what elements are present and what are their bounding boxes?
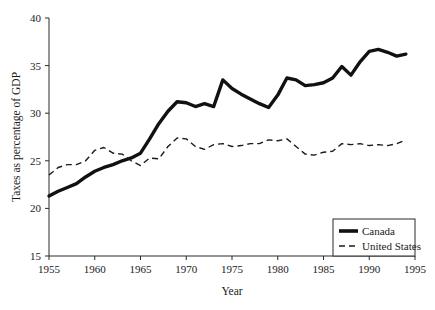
chart-figure: 152025303540 195519601965197019751980198… [0,0,435,310]
y-tick-label: 15 [30,250,42,262]
data-series-group [49,49,406,196]
x-tick-label: 1975 [221,263,244,275]
x-tick-label: 1965 [130,263,153,275]
x-tick-label: 1960 [84,263,107,275]
y-tick-label: 40 [30,12,42,24]
x-tick-label: 1970 [175,263,198,275]
line-chart: 152025303540 195519601965197019751980198… [0,0,435,310]
x-tick-label: 1990 [358,263,381,275]
y-axis-title: Taxes as percentage of GDP [10,72,23,202]
x-axis-title: Year [221,285,242,297]
x-axis-ticks: 195519601965197019751980198519901995 [38,256,427,275]
y-tick-label: 35 [30,60,42,72]
x-tick-label: 1985 [313,263,336,275]
y-tick-label: 30 [30,107,42,119]
y-tick-label: 20 [30,202,42,214]
x-tick-label: 1955 [38,263,61,275]
y-tick-label: 25 [30,155,42,167]
legend-label-canada: Canada [362,225,395,237]
x-tick-label: 1980 [267,263,290,275]
series-line-canada [49,49,406,196]
y-axis-ticks: 152025303540 [30,12,49,262]
x-tick-label: 1995 [404,263,427,275]
chart-legend[interactable]: Canada United States [333,219,421,256]
legend-label-united-states: United States [362,240,421,252]
